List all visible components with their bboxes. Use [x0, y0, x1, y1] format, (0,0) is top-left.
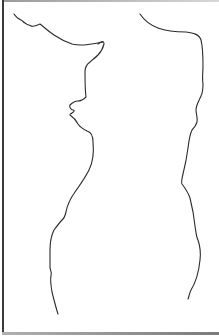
artwork-canvas	[0, 0, 219, 336]
left-contour-line	[14, 14, 104, 314]
right-contour-line	[140, 14, 203, 299]
torso-line-drawing	[0, 0, 219, 336]
